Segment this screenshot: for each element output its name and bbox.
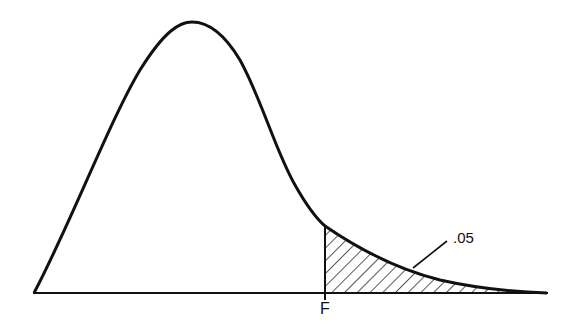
density-curve: [34, 22, 547, 293]
critical-value-label: F: [320, 300, 330, 318]
tail-area-label: .05: [453, 229, 474, 246]
tail-area-leader-line: [413, 241, 447, 268]
shaded-tail-region: [325, 220, 550, 295]
f-distribution-diagram: [0, 0, 574, 330]
